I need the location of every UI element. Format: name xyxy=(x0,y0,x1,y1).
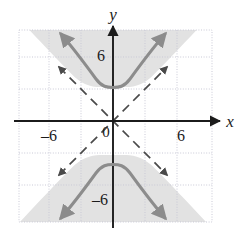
origin-label: 0 xyxy=(102,124,110,140)
hyperbola-figure: y x 6 –6 –6 6 0 xyxy=(0,0,243,236)
y-tick-label-negative-6: –6 xyxy=(91,191,108,208)
x-axis-label: x xyxy=(225,112,234,131)
x-tick-label-negative-6: –6 xyxy=(40,127,57,144)
x-tick-label-positive-6: 6 xyxy=(177,127,185,144)
y-tick-label-positive-6: 6 xyxy=(97,47,105,64)
y-axis-label: y xyxy=(107,5,117,24)
plot-canvas: y x 6 –6 –6 6 0 xyxy=(0,0,243,236)
